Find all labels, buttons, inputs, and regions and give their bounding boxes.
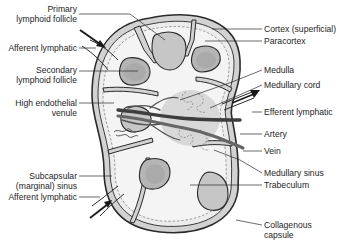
label-primary-lymphoid-follicle: Primary lymphoid follicle	[0, 4, 77, 24]
label-line: lymphoid follicle	[0, 75, 77, 85]
label-high-endothelial-venule: High endothelial venule	[0, 98, 77, 118]
label-paracortex: Paracortex	[264, 36, 306, 46]
label-line: Subcapsular	[0, 171, 77, 181]
label-line: lymphoid follicle	[0, 14, 77, 24]
label-line: High endothelial	[0, 98, 77, 108]
label-line: capsule	[264, 230, 312, 240]
lymph-node-diagram: Primary lymphoid follicle Afferent lymph…	[0, 0, 341, 251]
label-line: Vein	[264, 146, 281, 156]
label-line: (marginal) sinus	[0, 181, 77, 191]
label-line: Trabeculum	[264, 180, 309, 190]
label-line: Efferent lymphatic	[264, 107, 333, 117]
label-line: Collagenous	[264, 220, 312, 230]
label-line: Cortex (superficial)	[264, 24, 336, 34]
label-efferent-lymphatic: Efferent lymphatic	[264, 107, 333, 117]
label-vein: Vein	[264, 146, 281, 156]
label-medullary-cord: Medullary cord	[264, 80, 320, 90]
label-line: venule	[0, 108, 77, 118]
label-line: Afferent lymphatic	[0, 43, 77, 53]
label-line: Secondary	[0, 65, 77, 75]
label-medullary-sinus: Medullary sinus	[264, 168, 324, 178]
label-line: Medullary cord	[264, 80, 320, 90]
label-collagenous-capsule: Collagenous capsule	[264, 220, 312, 240]
label-line: Afferent lymphatic	[0, 192, 77, 202]
label-subcapsular-sinus: Subcapsular (marginal) sinus	[0, 171, 77, 191]
label-trabeculum: Trabeculum	[264, 180, 309, 190]
label-line: Primary	[0, 4, 77, 14]
label-secondary-lymphoid-follicle: Secondary lymphoid follicle	[0, 65, 77, 85]
label-line: Artery	[264, 129, 287, 139]
label-line: Medulla	[264, 65, 294, 75]
label-medulla: Medulla	[264, 65, 294, 75]
label-line: Medullary sinus	[264, 168, 324, 178]
label-cortex-superficial: Cortex (superficial)	[264, 24, 336, 34]
label-artery: Artery	[264, 129, 287, 139]
label-afferent-lymphatic-bottom: Afferent lymphatic	[0, 192, 77, 202]
label-afferent-lymphatic-top: Afferent lymphatic	[0, 43, 77, 53]
label-line: Paracortex	[264, 36, 306, 46]
